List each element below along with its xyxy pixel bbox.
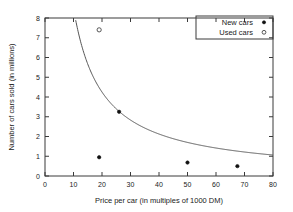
x-tick-label: 80 — [269, 181, 277, 188]
y-tick-label: 1 — [36, 153, 40, 160]
legend-label-used-cars: Used cars — [219, 28, 253, 37]
y-tick-label: 6 — [36, 54, 40, 61]
x-tick-label: 30 — [127, 181, 135, 188]
y-tick-label: 7 — [36, 34, 40, 41]
x-axis-title: Price per car (in multiples of 1000 DM) — [95, 196, 223, 205]
data-point-new-cars — [117, 110, 120, 113]
chart-figure: 012345678 01020304050607080 Price per ca… — [0, 0, 293, 212]
data-point-new-cars — [186, 161, 189, 164]
x-tick-label: 70 — [241, 181, 249, 188]
y-tick-label: 3 — [36, 113, 40, 120]
data-point-new-cars — [97, 156, 100, 159]
legend-label-new-cars: New cars — [222, 18, 254, 27]
y-tick-label: 8 — [36, 15, 40, 22]
legend-marker-filled-dot-icon — [262, 21, 265, 24]
x-tick-label: 50 — [184, 181, 192, 188]
x-tick-label: 40 — [155, 181, 163, 188]
y-axis-title: Number of cars sold (in millions) — [7, 43, 16, 151]
y-axis-tick-labels: 012345678 — [36, 15, 40, 180]
y-tick-label: 4 — [36, 94, 40, 101]
x-tick-label: 60 — [212, 181, 220, 188]
data-point-new-cars — [236, 164, 239, 167]
y-tick-label: 5 — [36, 74, 40, 81]
x-tick-label: 0 — [43, 181, 47, 188]
y-tick-label: 0 — [36, 173, 40, 180]
y-tick-label: 2 — [36, 133, 40, 140]
scatter-plot: 012345678 01020304050607080 Price per ca… — [0, 0, 293, 212]
x-tick-label: 10 — [70, 181, 78, 188]
x-tick-label: 20 — [98, 181, 106, 188]
